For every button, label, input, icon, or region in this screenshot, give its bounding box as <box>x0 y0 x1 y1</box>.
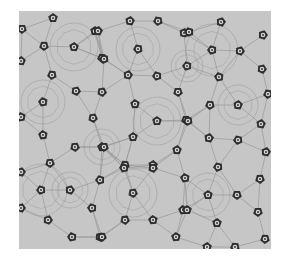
pentagon-motif <box>89 114 98 123</box>
pentagon-motif <box>182 61 191 70</box>
pentagon-motif <box>172 145 182 154</box>
pentagon-motif <box>38 97 47 106</box>
pentagon-motif <box>67 232 76 242</box>
pentagon-motif <box>69 42 79 51</box>
pentagon-motif <box>233 135 242 145</box>
pentagon-motif <box>152 71 161 81</box>
pentagon-motif <box>133 45 142 54</box>
pentagon-motif <box>260 235 270 244</box>
pentagon-motif <box>258 64 267 74</box>
micrograph-image <box>19 11 271 249</box>
quasicrystal-pattern <box>19 11 271 249</box>
pentagon-motif <box>19 56 26 65</box>
pentagon-motif <box>95 175 104 185</box>
pentagon-motif <box>213 162 222 172</box>
pentagon-motif <box>180 173 189 182</box>
pentagon-motif <box>72 86 81 96</box>
line-network <box>19 18 268 247</box>
pentagon-motif <box>205 101 215 110</box>
pentagon-motif <box>121 216 130 225</box>
pentagon-motif <box>153 17 162 26</box>
pentagon-motif <box>257 119 266 128</box>
pentagon-motif <box>152 116 162 125</box>
pentagon-motif <box>130 99 140 108</box>
pentagon-motif <box>70 143 80 152</box>
pentagon-motif <box>129 189 138 198</box>
pentagon-motif <box>230 243 240 249</box>
pentagon-motif <box>47 71 56 80</box>
pentagon-motif <box>263 90 271 99</box>
pentagon-motif <box>207 45 216 55</box>
pentagon-motif <box>148 215 158 224</box>
pentagon-motif <box>262 147 271 157</box>
pentagon-motif <box>48 13 58 22</box>
pentagon-motif <box>45 159 55 168</box>
pentagon-motif <box>205 133 214 142</box>
pentagon-motif <box>38 130 47 139</box>
pentagon-motif <box>173 88 183 97</box>
pentagon-motif <box>124 70 133 80</box>
pentagon-motif <box>217 17 226 27</box>
pentagon-motif <box>255 175 264 184</box>
pentagon-motif <box>171 232 181 241</box>
pentagon-motif <box>44 215 53 225</box>
pentagon-motif <box>19 25 27 34</box>
pentagon-motif <box>98 88 107 97</box>
pentagon-motif <box>202 242 212 249</box>
pentagon-motif <box>126 16 135 25</box>
pentagon-motif <box>212 218 222 227</box>
pentagon-motif <box>259 30 268 40</box>
